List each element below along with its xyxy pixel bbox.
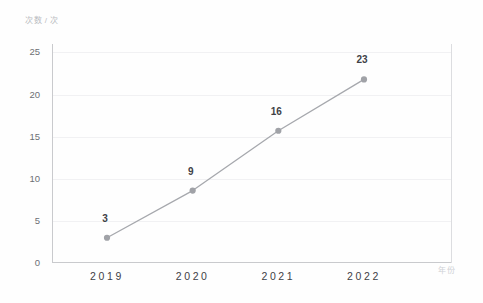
x-tick-label: 2022 <box>347 270 381 282</box>
line-chart: 次数 / 次 年份 0510152025 391623 201920202021… <box>0 0 483 303</box>
data-point-marker[interactable] <box>361 76 367 82</box>
data-point-marker[interactable] <box>190 187 196 193</box>
y-tick-label: 15 <box>29 132 40 142</box>
x-tick-label: 2020 <box>176 270 210 282</box>
y-tick-label: 10 <box>29 174 40 184</box>
y-tick-label: 5 <box>35 216 40 226</box>
y-tick-label: 0 <box>35 258 40 268</box>
y-tick-label: 20 <box>29 90 40 100</box>
data-point-marker[interactable] <box>275 128 281 134</box>
data-point-value-label: 9 <box>188 165 194 176</box>
plot-area: 0510152025 391623 2019202020212022 <box>52 44 452 263</box>
y-axis-ticks-group: 0510152025 <box>8 44 52 263</box>
series-line-group <box>52 44 452 263</box>
data-point-marker[interactable] <box>104 235 110 241</box>
x-tick-label: 2019 <box>90 270 124 282</box>
data-point-value-label: 16 <box>271 105 282 116</box>
x-axis-unit-label: 年份 <box>438 265 455 277</box>
series-polyline <box>107 79 364 237</box>
x-tick-label: 2021 <box>261 270 295 282</box>
data-point-value-label: 3 <box>102 212 108 223</box>
y-axis-unit-label: 次数 / 次 <box>25 15 59 27</box>
data-point-value-label: 23 <box>356 54 367 65</box>
y-tick-label: 25 <box>29 47 40 57</box>
